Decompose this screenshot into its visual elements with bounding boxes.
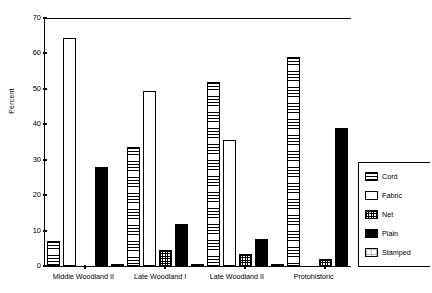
x-tick-mark: [84, 265, 86, 269]
legend-label: Net: [382, 210, 393, 219]
chart-figure: Percent 010203040506070 Middle Woodland …: [0, 0, 432, 293]
x-tick-mark: [244, 265, 246, 269]
legend-label: Plain: [382, 229, 398, 238]
bar-plain-4: [335, 128, 348, 266]
legend-label: Stamped: [382, 248, 411, 257]
bar-fabric-2: [143, 91, 156, 266]
x-axis-line: [44, 266, 351, 267]
y-tick-label: 0: [37, 261, 41, 270]
bar-cord-3: [207, 82, 220, 266]
bar-group: [285, 18, 365, 266]
x-axis-label: Late Woodland II: [199, 272, 276, 281]
legend-item-plain[interactable]: Plain: [365, 224, 430, 243]
y-axis-title: Percent: [8, 66, 15, 136]
x-axis-label: Middle Woodland II: [45, 272, 122, 281]
x-tick-mark: [324, 265, 326, 269]
bar-stamped-3: [271, 264, 284, 266]
bar-stamped-2: [191, 264, 204, 266]
y-tick-label: 20: [33, 190, 41, 199]
bar-plain-2: [175, 224, 188, 267]
bar-fabric-3: [223, 140, 236, 266]
x-axis-label: Protohistoric: [275, 272, 352, 281]
legend-item-stamped[interactable]: Stamped: [365, 243, 430, 262]
bar-cord-2: [127, 147, 140, 266]
legend-item-fabric[interactable]: Fabric: [365, 186, 430, 205]
bar-cord-4: [287, 57, 300, 266]
bar-plain-3: [255, 239, 268, 266]
y-tick-label: 60: [33, 48, 41, 57]
legend-swatch-cord: [365, 172, 378, 181]
y-tick-label: 70: [33, 13, 41, 22]
bar-group: [45, 18, 125, 266]
legend-swatch-fabric: [365, 191, 378, 200]
chart-legend: CordFabricNetPlainStamped: [358, 162, 430, 267]
bar-fabric-1: [63, 38, 76, 267]
x-axis-label: Late Woodland I: [122, 272, 199, 281]
bar-plain-1: [95, 167, 108, 266]
bar-stamped-1: [111, 264, 124, 266]
legend-item-cord[interactable]: Cord: [365, 167, 430, 186]
y-tick-label: 30: [33, 155, 41, 164]
plot-area: 010203040506070: [44, 18, 351, 267]
legend-swatch-stamped: [365, 248, 378, 257]
bar-groups: [45, 18, 351, 266]
bar-group: [125, 18, 205, 266]
y-tick-label: 50: [33, 84, 41, 93]
legend-item-net[interactable]: Net: [365, 205, 430, 224]
legend-label: Cord: [382, 172, 398, 181]
y-tick-label: 10: [33, 226, 41, 235]
legend-swatch-net: [365, 210, 378, 219]
y-tick-label: 40: [33, 119, 41, 128]
bar-cord-1: [47, 241, 60, 266]
bar-group: [205, 18, 285, 266]
bar-net-2: [159, 250, 172, 266]
x-tick-mark: [164, 265, 166, 269]
legend-label: Fabric: [382, 191, 402, 200]
legend-swatch-plain: [365, 229, 378, 238]
